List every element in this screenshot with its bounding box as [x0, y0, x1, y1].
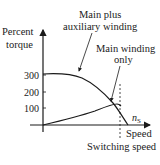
annotation-upper-line1: Main plus — [79, 9, 121, 20]
annotation-arrow-lower — [111, 66, 120, 101]
y-tick-300: 300 — [24, 70, 39, 81]
annotation-lower-line1: Main winding — [96, 43, 156, 54]
ns-label: nS — [132, 112, 141, 125]
switching-speed-label: Switching speed — [87, 141, 157, 152]
torque-speed-diagram: 300 200 100 Percent torque Main plus aux… — [0, 0, 160, 165]
y-axis-label-line2: torque — [6, 39, 33, 50]
x-axis-label: Speed — [126, 128, 152, 139]
annotation-arrow-upper — [79, 33, 92, 71]
curve-main-winding-only — [43, 104, 121, 125]
y-axis-label-line1: Percent — [2, 26, 34, 37]
annotation-upper-line2: auxiliary winding — [63, 21, 138, 32]
y-tick-200: 200 — [24, 87, 39, 98]
y-tick-100: 100 — [24, 103, 39, 114]
annotation-lower-line2: only — [114, 54, 133, 65]
curve-main-plus-auxiliary — [43, 74, 128, 125]
